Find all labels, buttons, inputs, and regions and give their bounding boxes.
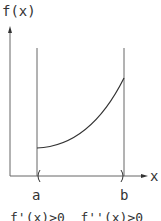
point-a-label: a: [32, 188, 40, 202]
x-axis-label: x: [150, 169, 158, 183]
condition-text: f'(x)>0 f''(x)>0: [10, 211, 143, 221]
y-axis-arrowhead-icon: [8, 26, 12, 33]
x-axis-arrowhead-icon: [141, 174, 148, 178]
point-b-label: b: [120, 188, 128, 202]
y-axis-label: f(x): [2, 4, 36, 18]
function-curve: [37, 78, 124, 148]
function-graph: [0, 0, 161, 221]
